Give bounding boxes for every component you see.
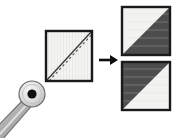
diagram-canvas: Cutting a fabric square diagonally into …	[0, 0, 177, 138]
half-square-triangle-top	[122, 7, 170, 55]
cutter-hub-icon	[27, 89, 36, 98]
diagram-svg	[0, 0, 177, 138]
source-fabric-square	[46, 31, 95, 81]
half-square-triangle-bottom	[122, 62, 170, 110]
